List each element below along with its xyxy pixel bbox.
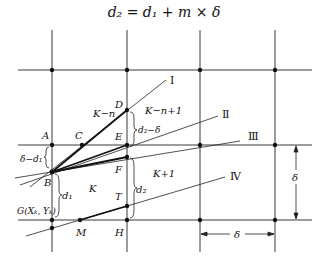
dim-d2: d₂	[136, 184, 146, 195]
point-M	[78, 218, 82, 222]
label-C: C	[75, 130, 83, 141]
label-A: A	[41, 130, 49, 141]
point-H	[125, 218, 129, 222]
point-T	[125, 204, 129, 208]
label-B: B	[43, 177, 51, 188]
point-G	[50, 218, 54, 222]
label-T: T	[115, 191, 123, 202]
point-F	[125, 155, 129, 159]
dim-delta-minus-d1: δ−d₁	[20, 154, 42, 164]
dim-delta-vertical: δ	[292, 172, 298, 183]
label-D: D	[114, 99, 123, 110]
dim-d1: d₁	[62, 190, 72, 201]
label-F: F	[114, 164, 123, 175]
point-G-lower	[50, 226, 54, 230]
label-G: G(Xₖ, Yₖ)	[17, 206, 56, 216]
line-II-label: Ⅱ	[222, 108, 229, 121]
region-k-plus-1: K+1	[152, 168, 175, 179]
dim-delta-horizontal: δ	[234, 229, 240, 240]
point-A	[50, 143, 54, 147]
line-I-label: Ⅰ	[170, 74, 174, 87]
dim-d2-minus-delta: d₂−δ	[138, 125, 160, 135]
line-IV-label: Ⅳ	[230, 170, 242, 183]
region-k-minus-n: K−n	[92, 108, 115, 119]
region-k-minus-n-plus-1: K−n+1	[144, 105, 182, 116]
label-H: H	[114, 227, 124, 238]
point-E	[125, 143, 129, 147]
label-E: E	[114, 131, 123, 142]
point-C	[80, 143, 84, 147]
grid-diagram: Ⅰ Ⅱ Ⅲ Ⅳ	[0, 0, 328, 265]
label-M: M	[75, 227, 87, 238]
point-D	[125, 108, 129, 112]
line-III-label: Ⅲ	[248, 130, 259, 143]
point-B	[50, 170, 55, 175]
region-k: K	[88, 183, 97, 194]
